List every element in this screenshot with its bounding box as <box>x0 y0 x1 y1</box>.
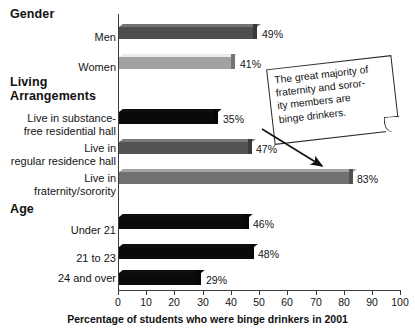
bar-24-and-over-top <box>119 270 205 273</box>
bar-21-to-23-top <box>119 244 258 247</box>
x-tick-label-10: 10 <box>131 296 161 308</box>
bar-value-substance-free-hall: 35% <box>223 113 244 125</box>
bar-regular-residence-hall-top <box>119 139 256 142</box>
x-tick-label-20: 20 <box>159 296 189 308</box>
category-label-24-and-over: 24 and over <box>58 272 116 285</box>
x-tick-40 <box>231 291 232 295</box>
x-tick-label-0: 0 <box>103 296 133 308</box>
bar-men-cap <box>253 24 257 39</box>
category-label-under-21: Under 21 <box>71 224 116 237</box>
x-axis-title: Percentage of students who were binge dr… <box>0 313 415 325</box>
x-tick-label-90: 90 <box>357 296 387 308</box>
x-tick-100 <box>400 291 401 295</box>
x-tick-20 <box>174 291 175 295</box>
callout-arrow-icon <box>260 126 340 174</box>
bar-under-21-top <box>119 214 253 217</box>
bar-regular-residence-hall-cap <box>248 139 252 154</box>
x-tick-30 <box>203 291 204 295</box>
bar-21-to-23-cap <box>250 244 254 259</box>
bar-under-21-cap <box>245 214 249 229</box>
bar-men-face <box>119 27 257 39</box>
bar-regular-residence-hall-face <box>119 142 252 154</box>
bar-value-fraternity-sorority: 83% <box>357 173 378 185</box>
x-tick-label-80: 80 <box>329 296 359 308</box>
category-label-21-to-23: 21 to 23 <box>76 252 116 265</box>
bar-value-under-21: 46% <box>253 218 274 230</box>
x-tick-90 <box>372 291 373 295</box>
x-tick-70 <box>316 291 317 295</box>
bar-24-and-over-cap <box>197 270 201 285</box>
bar-substance-free-hall-top <box>119 109 222 112</box>
x-tick-label-50: 50 <box>244 296 274 308</box>
x-tick-60 <box>287 291 288 295</box>
x-tick-label-60: 60 <box>272 296 302 308</box>
bar-under-21-face <box>119 217 249 229</box>
group-heading-age: Age <box>10 203 34 217</box>
category-label-women: Women <box>78 61 116 74</box>
category-label-fraternity-sorority: Live in fraternity/sorority <box>34 172 116 197</box>
bar-women-top <box>119 54 239 57</box>
x-tick-label-30: 30 <box>188 296 218 308</box>
category-label-men: Men <box>95 31 116 44</box>
bar-women-cap <box>231 54 235 69</box>
x-tick-10 <box>146 291 147 295</box>
bar-value-women: 41% <box>240 58 261 70</box>
bar-substance-free-hall-cap <box>214 109 218 124</box>
group-heading-living-arrangements: Living Arrangements <box>10 76 96 103</box>
bar-value-21-to-23: 48% <box>258 248 279 260</box>
bar-value-men: 49% <box>262 28 283 40</box>
category-label-substance-free-hall: Live in substance- free residential hall <box>24 112 116 137</box>
binge-drinking-bar-chart: Gender Living Arrangements Age Men Women… <box>0 0 415 332</box>
x-tick-label-100: 100 <box>385 296 415 308</box>
x-tick-50 <box>259 291 260 295</box>
bar-value-24-and-over: 29% <box>206 274 227 286</box>
x-tick-label-40: 40 <box>216 296 246 308</box>
bar-21-to-23-face <box>119 247 254 259</box>
x-tick-0 <box>118 291 119 295</box>
bar-fraternity-sorority-cap <box>349 169 353 184</box>
group-heading-gender: Gender <box>10 8 54 22</box>
bar-women-face <box>119 57 235 69</box>
bar-24-and-over-face <box>119 273 201 285</box>
bar-men-top <box>119 24 261 27</box>
category-label-regular-residence-hall: Live in regular residence hall <box>11 142 116 167</box>
bar-substance-free-hall-face <box>119 112 218 124</box>
x-tick-80 <box>344 291 345 295</box>
x-tick-label-70: 70 <box>301 296 331 308</box>
